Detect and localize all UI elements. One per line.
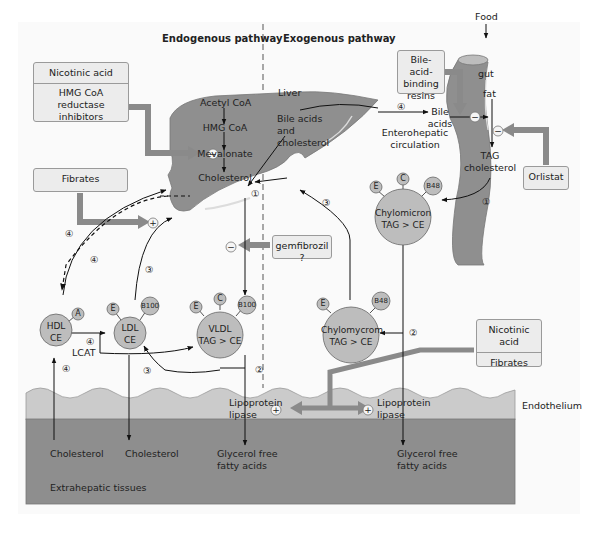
drug-box-fibrates: Fibrates [33,168,128,192]
acetyl-coa-label: Acetyl CoA [200,97,250,109]
minus-icon: − [493,125,503,137]
tag-label: TAG [481,150,500,161]
apo-e-chylo: E [370,181,382,193]
liver-label: Liver [278,87,301,99]
step-3-remnant: ③ [322,197,331,209]
drug-box-nicotinic-statins: Nicotinic acid HMG CoA reductase inhibit… [33,62,129,122]
step-4-tissue: ④ [62,363,71,375]
extrahepatic-label: Extrahepatic tissues [50,482,146,494]
step-4-bile: ④ [397,101,406,113]
glycerol-ffa-left: Glycerol free fatty acids [217,448,297,472]
drug-hmg-coa-inhibitors: HMG CoA reductase inhibitors [34,83,128,126]
drug-fibrates: Fibrates [34,169,127,189]
chylomicron-remnant-label: ChylomycromTAG > CE [321,324,381,348]
hdl-label: HDLCE [40,320,72,344]
minus-icon: − [208,148,218,160]
minus-icon: − [226,241,236,253]
apo-e-vldl: E [190,301,202,313]
drug-nicotinic-acid-2: Nicotinic acid [477,320,541,352]
step-3-tissue: ③ [143,365,152,377]
drug-box-bile-resins: Bile-acid-binding resins [397,50,445,94]
hmg-coa-label: HMG CoA [200,122,250,134]
step-4-dashed: ④ [65,228,74,240]
chylomicron-label: ChylomicronTAG > CE [373,207,433,231]
apo-b48-chylo: B48 [424,180,442,192]
lipoprotein-metabolism-diagram: Endogenous pathway Exogenous pathway Nic… [0,0,595,534]
endogenous-header: Endogenous pathway [162,33,282,45]
minus-icon: − [470,111,480,123]
apo-e-remnant: E [317,298,329,310]
glycerol-ffa-right: Glycerol free fatty acids [397,448,477,472]
step-1-liver: ① [251,188,260,200]
exogenous-header: Exogenous pathway [283,33,396,45]
cholesterol-liver-label: Cholesterol [195,172,255,184]
gut-label: gut [478,68,494,80]
drug-fibrates-2: Fibrates [477,352,541,373]
plus-icon: + [271,404,281,416]
drug-orlistat: Orlistat [524,167,568,187]
endothelium-label: Endothelium [522,400,582,412]
apo-b48-remnant: B48 [372,295,390,307]
drug-nicotinic-acid: Nicotinic acid [34,63,128,83]
apo-a-hdl: A [72,308,84,320]
step-1-gut: ① [482,196,491,208]
cholesterol-in-label: Cholesterol [50,448,104,460]
mevalonate-label: Mevalonate [195,148,255,160]
step-4-hdl: ④ [90,254,99,266]
apo-e-ldl: E [107,303,119,315]
plus-icon: + [363,404,373,416]
enterohepatic-label: Enterohepatic circulation [375,127,455,151]
drug-gemfibrozil: gemfibrozil ? [273,236,331,268]
apo-c-chylo: C [397,173,409,185]
step-3-ldl: ③ [145,264,154,276]
cholesterol-out-label: Cholesterol [125,448,179,460]
lcat-label: LCAT [72,347,96,359]
apo-c-vldl: C [214,293,226,305]
drug-box-orlistat: Orlistat [523,166,569,190]
bile-acids-cholesterol-label: Bile acids and cholesterol [277,113,342,149]
lpl-label-right: Lipoprotein lipase [377,397,432,421]
tag-cholesterol-label: TAG cholesterol [462,150,518,174]
step-2-vldl: ② [255,364,264,376]
apo-b100-ldl: B100 [140,300,160,312]
cholesterol-gut-label: cholesterol [464,162,516,173]
drug-box-nicotinic-fibrates: Nicotinic acid Fibrates [476,319,542,367]
fat-label: fat [483,88,496,100]
ldl-label: LDLCE [114,322,146,346]
drug-box-gemfibrozil: gemfibrozil ? [272,235,332,259]
food-label: Food [475,11,498,23]
vldl-label: VLDLTAG > CE [195,323,245,347]
drug-bile-acid-resins: Bile-acid-binding resins [398,51,444,105]
step-2-chylo: ② [409,327,418,339]
plus-icon: + [148,217,158,229]
apo-b100-vldl: B100 [237,299,257,311]
